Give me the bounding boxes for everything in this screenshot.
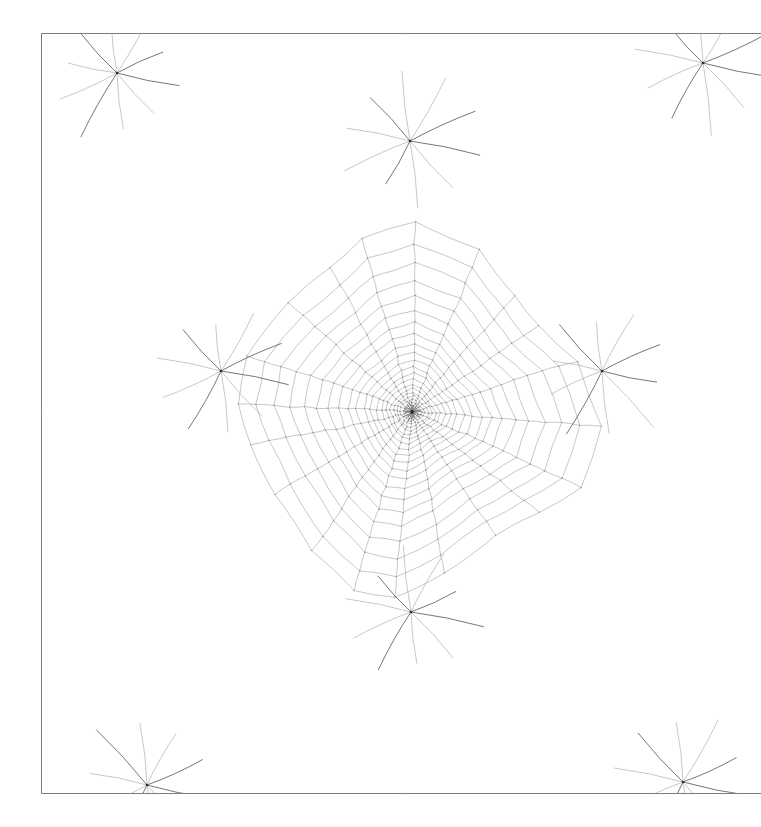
mesh-figure [0, 0, 761, 827]
quad-mesh-canvas [0, 0, 761, 827]
